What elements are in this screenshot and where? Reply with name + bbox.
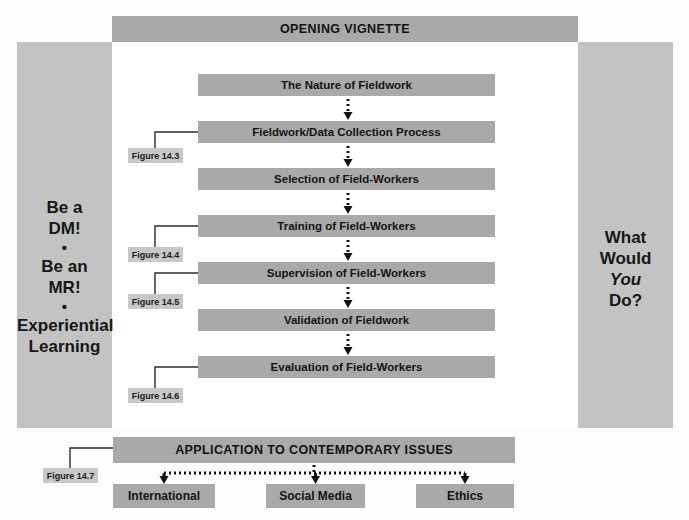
flow-box-5: Supervision of Field-Workers [198,262,495,284]
figure-canvas: Be a DM! • Be an MR! • Experiential Lear… [0,0,689,520]
sidebar-left-line-5: Experiential [17,316,113,335]
figure-callout-figure-14-6: Figure 14.6 [128,388,183,403]
arrowhead-branch-2 [311,476,320,484]
sidebar-left-text: Be a DM! • Be an MR! • Experiential Lear… [17,197,112,357]
figure-callout-figure-14-5: Figure 14.5 [128,294,183,309]
sidebar-left-bullet-2: • [17,298,112,315]
sidebar-right-line-2: Would [600,249,652,268]
arrowhead-branch-1 [160,476,169,484]
flow-box-7: Evaluation of Field-Workers [198,356,495,378]
flow-box-2: Fieldwork/Data Collection Process [198,121,495,143]
sidebar-right-line-1: What [605,228,647,247]
sidebar-left-line-6: Learning [29,337,101,356]
sidebar-right-what-would-you-do: What Would You Do? [578,42,673,428]
sidebar-left-line-1: Be a [47,198,83,217]
flow-box-4: Training of Field-Workers [198,215,495,237]
application-to-contemporary-issues-banner: APPLICATION TO CONTEMPORARY ISSUES [113,437,515,463]
opening-vignette-banner: OPENING VIGNETTE [112,16,578,42]
sidebar-right-text: What Would You Do? [578,227,673,311]
sidebar-right-line-4: Do? [609,291,642,310]
flow-box-1: The Nature of Fieldwork [198,74,495,96]
sidebar-left-be-a-dm: Be a DM! • Be an MR! • Experiential Lear… [17,42,112,428]
flow-box-3: Selection of Field-Workers [198,168,495,190]
sidebar-left-bullet-1: • [17,239,112,256]
sidebar-left-line-4: MR! [48,278,80,297]
figure-callout-figure-14-3: Figure 14.3 [128,148,183,163]
leaf-box-ethics: Ethics [416,484,514,508]
leaf-box-social-media: Social Media [266,484,365,508]
leaf-box-international: International [113,484,215,508]
leader-line-figure-14-7 [70,448,113,468]
sidebar-left-line-3: Be an [41,257,87,276]
figure-callout-figure-14-7: Figure 14.7 [43,468,98,483]
figure-callout-figure-14-4: Figure 14.4 [128,247,183,262]
arrowhead-branch-3 [461,476,470,484]
sidebar-right-line-3: You [610,270,641,289]
flow-box-6: Validation of Fieldwork [198,309,495,331]
branching-dotted-arrows [160,465,470,484]
sidebar-left-line-2: DM! [48,219,80,238]
